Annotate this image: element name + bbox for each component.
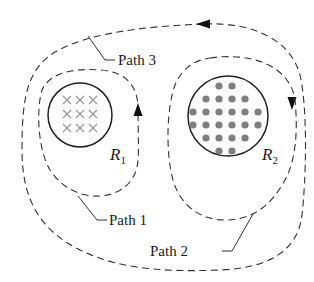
region-r2-label: R2 — [261, 145, 278, 166]
path-1-arrow-icon — [134, 103, 143, 116]
region-r1-circle — [48, 83, 112, 147]
path-1-leader-line — [78, 196, 107, 220]
path-2-leader-line — [222, 214, 253, 251]
path-3-label: Path 3 — [118, 52, 156, 68]
region-r1: R1 — [48, 83, 126, 166]
path-2-label: Path 2 — [150, 243, 188, 259]
path-3-leader-line — [88, 36, 115, 60]
path-1-label: Path 1 — [109, 212, 147, 228]
ampere-paths-diagram: R1 R2 Path 3 — [0, 0, 314, 282]
region-r2: R2 — [188, 76, 278, 166]
region-r1-label: R1 — [109, 145, 126, 166]
region-r2-circle — [188, 76, 268, 156]
path-3-arrow-icon — [196, 20, 210, 29]
